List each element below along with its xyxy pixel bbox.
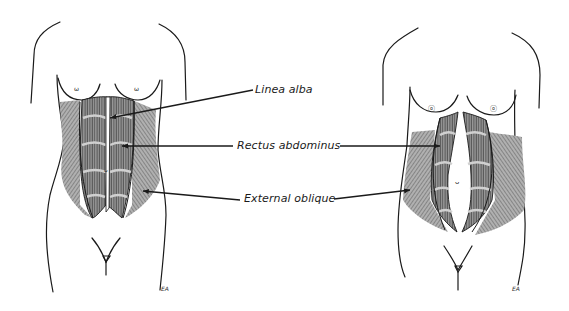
oblique-leader-left — [143, 191, 240, 200]
left-navel: ᴗ — [104, 166, 108, 173]
pubic-outline — [92, 238, 120, 262]
right-fig-left-nipple: ⓞ — [428, 105, 435, 113]
linea-alba-label: Linea alba — [255, 84, 313, 96]
right-navel: ᴗ — [455, 178, 459, 186]
right-fig-left-arm — [383, 28, 418, 105]
right-nipple: ω — [134, 85, 139, 92]
left-arm-outline — [31, 22, 60, 103]
right-arm-outline — [159, 24, 186, 100]
left-signature: EA — [161, 285, 169, 292]
right-fig-right-nipple: ⓞ — [490, 105, 497, 113]
oblique-leader-right — [334, 190, 410, 199]
right-signature: EA — [512, 285, 520, 292]
external-oblique-label: External oblique — [244, 193, 335, 205]
rectus-abdominus-label: Rectus abdominus — [237, 140, 340, 152]
torso-right-side — [158, 80, 166, 290]
left-linea-alba — [106, 97, 110, 212]
left-nipple: ω — [74, 85, 79, 92]
anatomy-diagram: ω ω ᴗ EA ⓞ ⓞ — [0, 0, 569, 311]
